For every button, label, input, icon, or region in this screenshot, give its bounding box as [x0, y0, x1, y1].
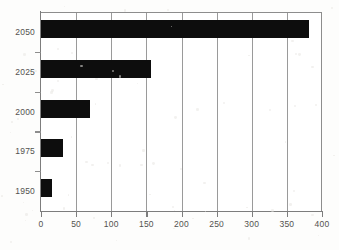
scan-speckle	[1, 195, 3, 197]
x-tick-mark	[252, 211, 253, 217]
x-tick-label: 0	[21, 219, 61, 229]
bar-row	[41, 172, 321, 212]
bar-2050	[41, 20, 309, 38]
y-tick-mark	[35, 131, 41, 132]
scan-speckle	[174, 116, 177, 119]
x-tick-mark	[217, 211, 218, 217]
scan-speckle	[107, 162, 109, 164]
scan-speckle	[167, 9, 169, 11]
x-tick-label: 150	[126, 219, 166, 229]
y-tick-label-1950: 1950	[2, 186, 35, 196]
scan-speckle	[119, 164, 122, 167]
scan-speckle	[315, 104, 317, 106]
scan-speckle	[140, 164, 143, 167]
scan-speckle	[34, 70, 36, 72]
scan-speckle	[172, 206, 174, 208]
scan-speckle	[246, 207, 247, 208]
scan-speckle	[10, 241, 12, 243]
scan-speckle	[333, 155, 334, 156]
scan-speckle	[142, 149, 144, 151]
scan-speckle	[32, 210, 33, 211]
x-tick-mark	[41, 211, 42, 217]
bar-2025	[41, 60, 151, 78]
x-tick-mark	[76, 211, 77, 217]
scan-speckle	[57, 48, 59, 50]
scan-speckle	[271, 209, 273, 211]
x-tick-label: 250	[197, 219, 237, 229]
scan-speckle	[203, 182, 205, 184]
y-tick-mark	[35, 52, 41, 53]
x-tick-mark	[182, 211, 183, 217]
scan-speckle	[50, 91, 53, 94]
bar-row	[41, 132, 321, 172]
scan-speckle	[196, 108, 199, 111]
scan-speckle	[318, 235, 319, 236]
bar-row	[41, 53, 321, 93]
scan-speckle	[95, 78, 98, 81]
scan-speckle	[311, 214, 314, 217]
x-tick-label: 50	[56, 219, 96, 229]
bar-2000	[41, 100, 90, 118]
x-tick-mark	[322, 211, 323, 217]
x-tick-mark	[287, 211, 288, 217]
scan-speckle	[11, 121, 13, 123]
scan-speckle	[180, 168, 182, 170]
bar-chart-figure: 050100150200250300350400 205020252000197…	[0, 0, 339, 250]
bar-row	[41, 93, 321, 133]
scan-speckle	[116, 240, 117, 241]
x-tick-label: 400	[302, 219, 339, 229]
scan-speckle	[71, 52, 73, 54]
scan-speckle	[119, 75, 122, 78]
scan-speckle	[25, 213, 27, 215]
x-tick-label: 350	[267, 219, 307, 229]
y-tick-label-1975: 1975	[2, 146, 35, 156]
bar-1975	[41, 139, 63, 157]
y-axis-line	[40, 11, 41, 212]
scan-speckle	[124, 9, 126, 11]
scan-speckle	[248, 237, 251, 240]
scan-speckle	[85, 161, 88, 164]
scan-speckle	[298, 53, 301, 56]
bar-1950	[41, 179, 52, 197]
scan-speckle	[2, 84, 3, 85]
scan-speckle	[17, 118, 19, 120]
x-tick-mark	[111, 211, 112, 217]
scan-speckle	[289, 203, 291, 205]
scan-speckle	[112, 70, 114, 72]
scan-speckle	[331, 7, 333, 9]
scan-speckle	[311, 66, 313, 68]
y-tick-mark	[35, 92, 41, 93]
scan-speckle	[23, 53, 26, 56]
x-tick-label: 100	[91, 219, 131, 229]
y-tick-mark	[35, 171, 41, 172]
scan-speckle	[248, 55, 249, 56]
scan-speckle	[173, 228, 175, 230]
bar-row	[41, 13, 321, 53]
x-tick-label: 200	[162, 219, 202, 229]
plot-area	[41, 12, 322, 211]
y-tick-label-2000: 2000	[2, 107, 35, 117]
scan-speckle	[10, 132, 12, 134]
scan-speckle	[23, 202, 24, 203]
x-tick-mark	[146, 211, 147, 217]
scan-speckle	[64, 6, 65, 7]
x-tick-label: 300	[232, 219, 272, 229]
scan-speckle	[93, 217, 94, 218]
y-tick-label-2050: 2050	[2, 27, 35, 37]
